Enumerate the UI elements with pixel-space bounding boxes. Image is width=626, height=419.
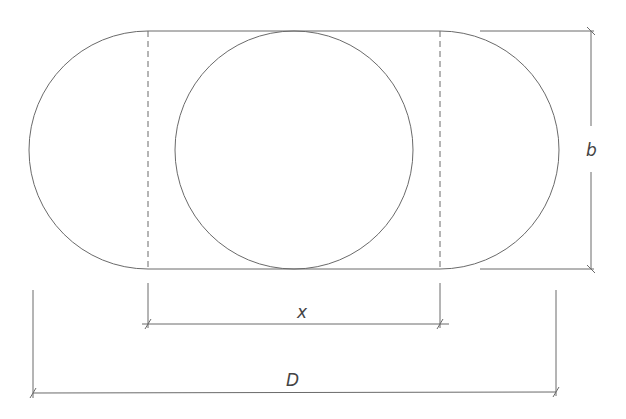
right-semicircle (440, 31, 559, 269)
b-label: b (586, 140, 597, 160)
left-semicircle (29, 31, 148, 269)
stadium-diagram: b x D (0, 0, 626, 419)
inscribed-circle (175, 31, 413, 269)
x-label: x (296, 302, 308, 322)
d-dimension-line (33, 392, 556, 393)
d-label: D (286, 370, 299, 390)
